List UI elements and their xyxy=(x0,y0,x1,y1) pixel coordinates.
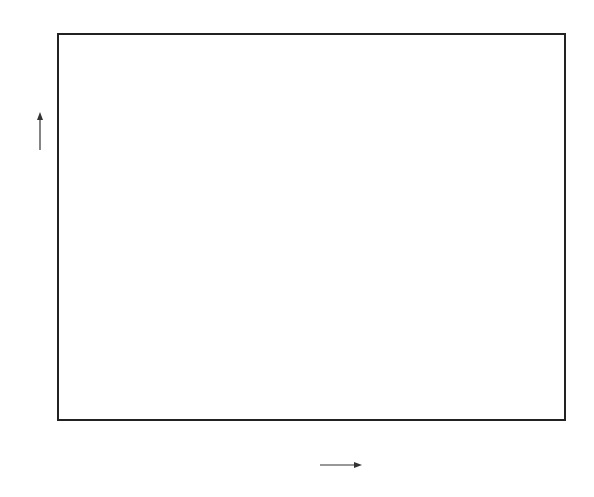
y-axis-arrowhead xyxy=(37,112,43,120)
x-axis-arrowhead xyxy=(354,462,362,468)
plot-frame xyxy=(58,34,565,420)
chart xyxy=(0,0,594,497)
